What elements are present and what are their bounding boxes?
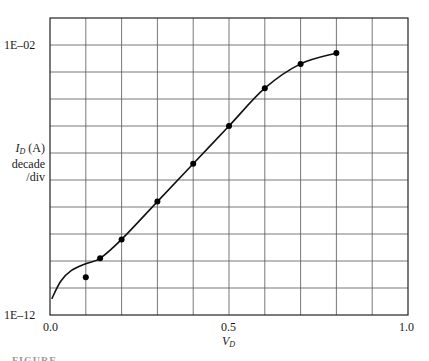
data-point <box>83 274 89 280</box>
x-axis-label: VD <box>222 334 235 349</box>
data-point <box>190 161 196 167</box>
figure-caption-cutoff: FIGURE <box>12 355 57 361</box>
y-tick-label-bottom: 1E–12 <box>4 309 35 321</box>
data-point <box>333 50 339 56</box>
data-point <box>119 236 125 242</box>
y-axis-label: ID (A) decade /div <box>0 142 45 184</box>
x-tick-label-1-0: 1.0 <box>399 321 414 333</box>
data-point <box>154 199 160 205</box>
x-tick-label-0: 0.0 <box>43 321 58 333</box>
model-curve-line <box>52 53 337 299</box>
data-point <box>97 255 103 261</box>
y-axis-label-line1: ID (A) <box>0 142 45 158</box>
y-axis-label-line3: /div <box>0 171 45 184</box>
data-point <box>226 123 232 129</box>
grid-lines <box>50 18 408 315</box>
chart-plot-area <box>0 0 429 361</box>
data-point <box>298 61 304 67</box>
y-tick-label-top: 1E–02 <box>4 39 35 51</box>
x-tick-label-0-5: 0.5 <box>221 321 236 333</box>
data-point <box>262 85 268 91</box>
